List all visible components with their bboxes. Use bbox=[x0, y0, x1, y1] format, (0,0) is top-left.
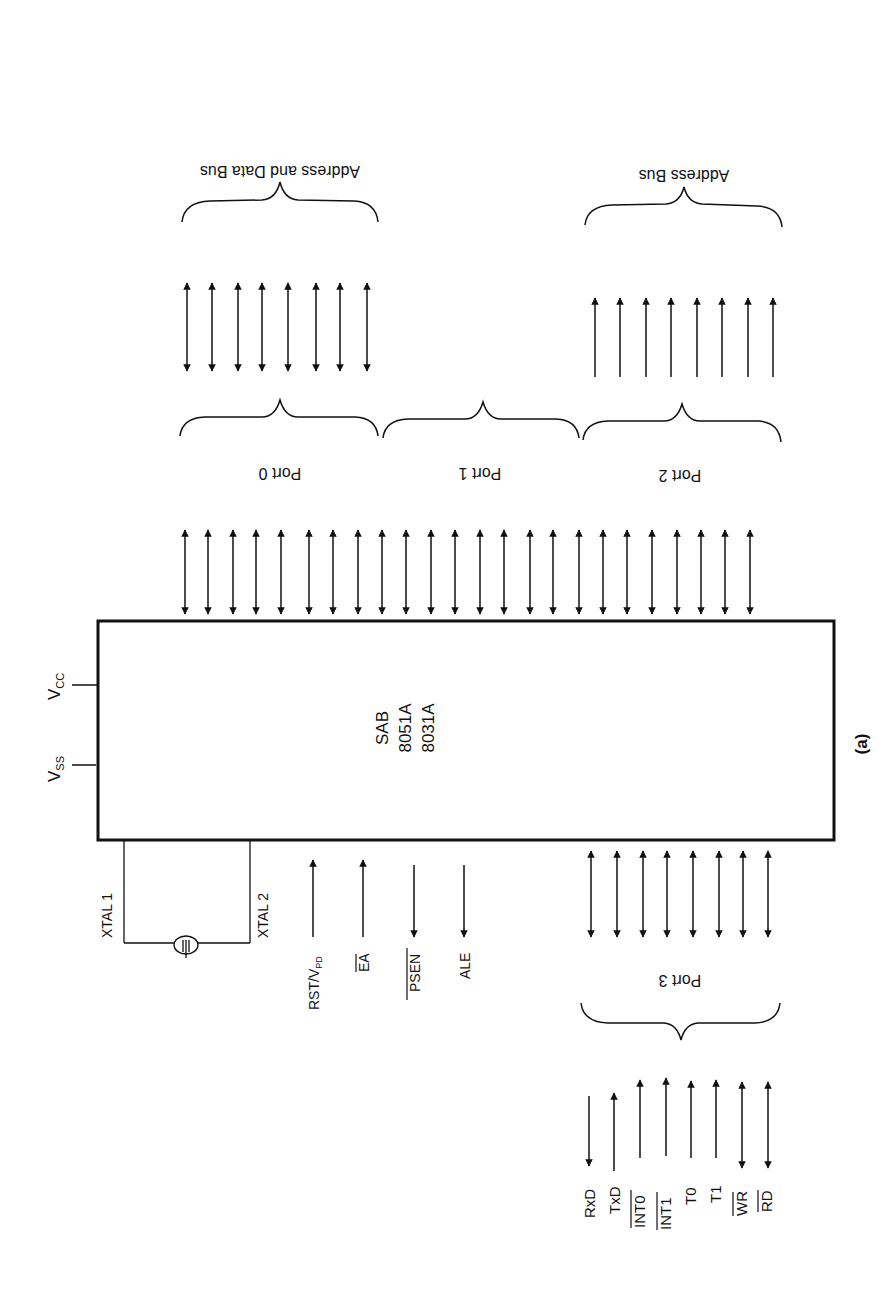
vss-label: VSS bbox=[45, 756, 66, 782]
control-signal-arrows bbox=[313, 860, 464, 937]
address-bus-arrows bbox=[595, 298, 773, 377]
svg-text:SAB: SAB bbox=[373, 711, 392, 745]
vcc-label: VCC bbox=[45, 673, 66, 700]
rd-label: RD bbox=[758, 1190, 775, 1212]
xtal2-label: XTAL 2 bbox=[255, 893, 271, 938]
svg-text:RST/VPD: RST/VPD bbox=[306, 956, 324, 1010]
svg-text:T1: T1 bbox=[707, 1185, 724, 1203]
ale-label: ALE bbox=[457, 953, 473, 979]
port-3-arrows bbox=[591, 851, 768, 937]
svg-text:Port 1: Port 1 bbox=[459, 465, 502, 482]
ea-label: EA bbox=[356, 953, 372, 972]
psen-label: PSEN bbox=[407, 948, 423, 1000]
svg-text:Port 3: Port 3 bbox=[659, 972, 702, 989]
svg-text:INT0: INT0 bbox=[631, 1195, 648, 1228]
port-1-label: Port 1 bbox=[459, 465, 502, 482]
bus-braces bbox=[182, 182, 782, 227]
rst-vpd-label: RST/VPD bbox=[306, 956, 324, 1010]
svg-text:8031A: 8031A bbox=[419, 703, 438, 753]
svg-text:8051A: 8051A bbox=[396, 703, 415, 753]
txd-label: TxD bbox=[606, 1186, 623, 1214]
svg-text:XTAL 2: XTAL 2 bbox=[255, 893, 271, 938]
svg-text:VCC: VCC bbox=[45, 673, 66, 700]
wr-label: WR bbox=[733, 1191, 750, 1216]
address-data-bus-label: Address and Data Bus bbox=[200, 163, 360, 180]
svg-text:EA: EA bbox=[356, 953, 372, 972]
microcontroller-block-diagram: SAB 8051A 8031A VCC VSS bbox=[0, 0, 884, 1312]
xtal1-label: XTAL 1 bbox=[99, 893, 115, 938]
crystal-circuit bbox=[124, 840, 250, 958]
svg-text:Address Bus: Address Bus bbox=[639, 167, 730, 184]
svg-text:PSEN: PSEN bbox=[407, 954, 423, 992]
svg-text:Port 2: Port 2 bbox=[659, 467, 702, 484]
svg-text:(a): (a) bbox=[852, 734, 871, 755]
port-0-1-2-arrows bbox=[185, 530, 750, 614]
svg-text:T0: T0 bbox=[682, 1187, 699, 1205]
address-data-bus-arrows bbox=[187, 283, 367, 371]
address-bus-label: Address Bus bbox=[639, 167, 730, 184]
svg-text:Port 0: Port 0 bbox=[259, 465, 302, 482]
int1-label: INT1 bbox=[657, 1192, 674, 1230]
rxd-label: RxD bbox=[581, 1189, 598, 1218]
svg-text:Address and Data Bus: Address and Data Bus bbox=[200, 163, 360, 180]
chip-box bbox=[98, 621, 834, 840]
svg-text:WR: WR bbox=[733, 1191, 750, 1216]
t1-label: T1 bbox=[707, 1185, 724, 1203]
port-3-label: Port 3 bbox=[659, 972, 702, 989]
svg-text:VSS: VSS bbox=[45, 756, 66, 782]
port-3-function-labels: RxD TxD INT0 INT1 T0 T1 WR RD bbox=[581, 1185, 775, 1230]
port-3-brace bbox=[581, 1003, 780, 1040]
svg-text:RxD: RxD bbox=[581, 1189, 598, 1218]
svg-text:INT1: INT1 bbox=[657, 1197, 674, 1230]
int0-label: INT0 bbox=[631, 1190, 648, 1228]
port-3-function-arrows bbox=[589, 1078, 768, 1171]
svg-text:RD: RD bbox=[758, 1190, 775, 1212]
svg-text:ALE: ALE bbox=[457, 953, 473, 979]
control-signal-labels: RST/VPD EA PSEN ALE bbox=[306, 948, 473, 1010]
figure-caption: (a) bbox=[852, 734, 871, 755]
svg-text:TxD: TxD bbox=[606, 1186, 623, 1214]
port-0-label: Port 0 bbox=[259, 465, 302, 482]
port-2-label: Port 2 bbox=[659, 467, 702, 484]
svg-text:XTAL 1: XTAL 1 bbox=[99, 893, 115, 938]
t0-label: T0 bbox=[682, 1187, 699, 1205]
port-braces bbox=[180, 400, 781, 442]
